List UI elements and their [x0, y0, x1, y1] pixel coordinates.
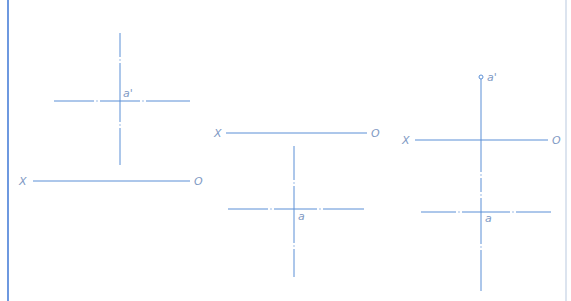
projection-diagram: XOa' XOa XOa'a: [0, 0, 571, 301]
xo-axis: XO: [18, 175, 203, 188]
axis-label-x: X: [401, 134, 410, 147]
axis-label-o: O: [552, 134, 561, 147]
point-label-a-prime: a': [487, 71, 497, 84]
xo-axis: XO: [213, 127, 380, 140]
point-label-a: a: [298, 210, 305, 223]
point-label-a: a: [485, 212, 492, 225]
panel-3-point-projection: XOa'a: [401, 71, 561, 291]
point-marker-icon: [479, 75, 483, 79]
axis-label-o: O: [371, 127, 380, 140]
panel-1-point-projection: XOa': [18, 33, 203, 188]
axis-label-o: O: [194, 175, 203, 188]
point-label-a-prime: a': [123, 87, 133, 100]
axis-label-x: X: [213, 127, 222, 140]
panel-2-point-projection: XOa: [213, 127, 380, 277]
point-a-prime: a': [479, 71, 497, 84]
axis-label-x: X: [18, 175, 27, 188]
